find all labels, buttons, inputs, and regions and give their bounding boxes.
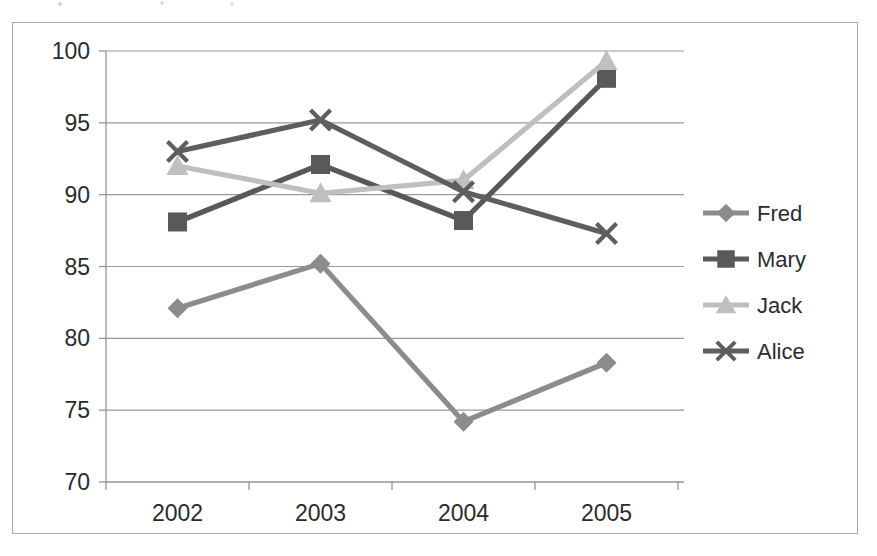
legend-label: Alice	[757, 339, 805, 364]
series-line	[178, 264, 607, 422]
marker-square	[311, 155, 330, 174]
x-axis-tick-label: 2003	[295, 500, 346, 526]
series-line	[178, 61, 607, 193]
y-axis-tick-labels: 707580859095100	[52, 38, 90, 495]
y-axis	[99, 51, 106, 482]
x-axis-tick-label: 2002	[152, 500, 203, 526]
y-axis-tick-label: 90	[64, 182, 90, 208]
chart-frame: 707580859095100 2002200320042005 FredMar…	[12, 22, 858, 534]
legend-label: Fred	[757, 201, 802, 226]
y-axis-tick-label: 85	[64, 254, 90, 280]
marker-diamond	[168, 298, 188, 318]
scan-artifact	[0, 0, 877, 14]
series-mary	[168, 69, 616, 232]
legend-label: Jack	[757, 293, 803, 318]
legend-item-fred[interactable]: Fred	[703, 201, 802, 226]
legend-item-jack[interactable]: Jack	[703, 293, 803, 318]
marker-square	[454, 211, 473, 230]
line-chart: 707580859095100 2002200320042005 FredMar…	[13, 23, 857, 533]
marker-diamond	[717, 204, 735, 222]
x-axis-tick-label: 2004	[438, 500, 489, 526]
chart-legend: FredMaryJackAlice	[703, 201, 806, 364]
series-fred	[168, 254, 617, 432]
y-axis-tick-label: 80	[64, 325, 90, 351]
series-jack	[167, 50, 618, 202]
x-axis-tick-labels: 2002200320042005	[152, 500, 632, 526]
x-axis-tick-label: 2005	[581, 500, 632, 526]
marker-square	[717, 250, 734, 267]
marker-diamond	[597, 353, 617, 373]
gridlines	[106, 51, 684, 482]
y-axis-tick-label: 100	[52, 38, 90, 64]
legend-item-mary[interactable]: Mary	[703, 247, 806, 272]
marker-square	[168, 212, 187, 231]
x-axis	[106, 482, 684, 490]
marker-triangle	[596, 50, 618, 70]
legend-item-alice[interactable]: Alice	[703, 339, 805, 364]
data-series-layer	[167, 50, 618, 432]
legend-label: Mary	[757, 247, 806, 272]
marker-square	[597, 69, 616, 88]
y-axis-tick-label: 75	[64, 397, 90, 423]
y-axis-tick-label: 70	[64, 469, 90, 495]
y-axis-tick-label: 95	[64, 110, 90, 136]
series-line	[178, 78, 607, 222]
